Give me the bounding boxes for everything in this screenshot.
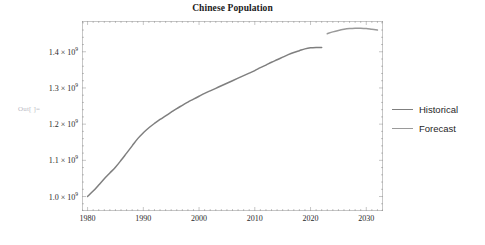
x-tick-label: 1990 [135,214,151,223]
plot-area [82,21,383,211]
page-title: Chinese Population [82,3,383,13]
legend-line-swatch-icon [392,128,413,130]
y-tick-label: 1.1 × 109 [49,156,78,165]
legend-line-swatch-icon [392,109,413,111]
x-tick-label: 1980 [80,214,96,223]
y-tick-label: 1.4 × 109 [49,47,78,56]
x-tick-label: 2030 [358,214,374,223]
plot-frame [82,21,383,211]
y-tick-label: 1.3 × 109 [49,83,78,92]
legend-label: Forecast [419,123,456,134]
x-tick-label: 2020 [303,214,319,223]
series-line-forecast [327,28,377,33]
legend-item-forecast[interactable]: Forecast [392,119,482,138]
x-axis-tick-labels: 198019902000201020202030 [82,214,383,228]
chart-legend: HistoricalForecast [392,100,482,138]
line-chart-svg [82,21,383,211]
data-series [88,28,378,196]
y-tick-label: 1.2 × 109 [49,120,78,129]
legend-item-historical[interactable]: Historical [392,100,482,119]
series-line-historical [88,47,322,196]
x-tick-label: 2000 [191,214,207,223]
y-tick-label: 1.0 × 109 [49,192,78,201]
chart-screenshot: Out[ ]= Chinese Population 1.4 × 1091.3 … [0,0,485,245]
y-axis-tick-labels: 1.4 × 1091.3 × 1091.2 × 1091.1 × 1091.0 … [30,21,78,211]
legend-label: Historical [419,104,458,115]
x-tick-label: 2010 [247,214,263,223]
axis-ticks [82,21,383,211]
